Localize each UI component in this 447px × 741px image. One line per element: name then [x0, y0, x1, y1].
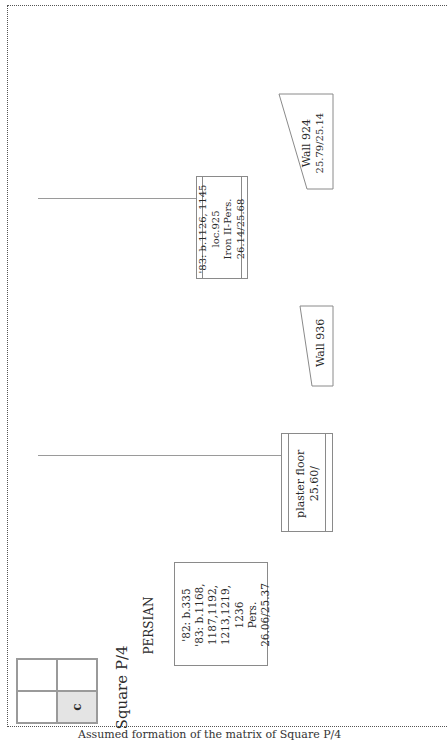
- unit-box-loc-925: '83: b.1126, 1145 loc.925 Iron II-Pers. …: [196, 176, 248, 279]
- unit-box-plaster-floor: plaster floor 25.60/: [281, 433, 333, 532]
- grid-cell-a: [17, 659, 57, 691]
- unit-box-persian-loci: '82: b.335 '83: b.1168, 1187,1192, 1213,…: [174, 562, 268, 666]
- unit-text-persian-loci: '82: b.335 '83: b.1168, 1187,1192, 1213,…: [180, 563, 264, 667]
- grid-cell-b: [57, 659, 97, 691]
- grid-cell-label: c: [70, 703, 84, 710]
- period-label: PERSIAN: [142, 591, 157, 661]
- square-title: Square P/4: [113, 637, 132, 737]
- square-key-grid: c: [16, 658, 98, 724]
- connector-line-upper: [38, 198, 196, 199]
- unit-text-wall-924: Wall 924 25.79/25.14: [300, 103, 326, 183]
- grid-cell-d: [17, 691, 57, 723]
- unit-text-plaster-floor: plaster floor 25.60/: [294, 434, 322, 534]
- unit-text-loc-925: '83: b.1126, 1145 loc.925 Iron II-Pers. …: [197, 176, 247, 282]
- grid-cell-c: c: [57, 691, 97, 723]
- connector-line-lower: [38, 455, 282, 456]
- figure-caption: Assumed formation of the matrix of Squar…: [78, 728, 341, 741]
- unit-text-wall-936: Wall 936: [314, 308, 328, 378]
